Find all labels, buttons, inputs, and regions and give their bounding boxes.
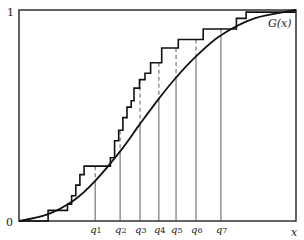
quantile-label-q4: q4 (154, 224, 166, 235)
quantile-label-q3: q3 (135, 224, 147, 235)
quantile-label-q6: q6 (191, 224, 203, 235)
quantile-labels: q1q2q3q4q5q6q7 (90, 224, 227, 235)
curve-label: G(x) (268, 17, 292, 30)
x-axis-label: x (291, 226, 298, 239)
empirical-step-function (19, 12, 296, 221)
y-tick-0: 0 (6, 216, 13, 229)
quantile-label-q7: q7 (216, 224, 228, 235)
quantile-label-q1: q1 (90, 224, 102, 235)
quantile-label-q2: q2 (115, 224, 127, 235)
y-tick-1: 1 (7, 6, 14, 19)
quantile-label-q5: q5 (171, 224, 183, 235)
plot-frame (19, 10, 296, 221)
cdf-curve-G (19, 10, 296, 221)
cdf-chart: 1 0 x G(x) q1q2q3q4q5q6q7 (0, 0, 304, 240)
